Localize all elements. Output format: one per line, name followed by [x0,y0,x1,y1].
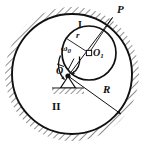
label-region-I: I [78,20,82,30]
label-center-O1-subscript: 1 [100,52,104,60]
center-marker-O1 [86,50,91,55]
label-point-P: P [117,4,124,15]
label-center-O1: O1 [93,48,104,58]
label-omega-symbol: ω [61,43,68,53]
diagram-canvas: P I r O1 ω0 O R II [0,0,143,143]
label-pivot-O: O [56,66,63,76]
label-region-II: II [52,101,61,112]
mechanics-figure [0,0,143,143]
label-omega-zero: ω0 [61,44,71,53]
label-radius-R: R [103,84,110,95]
label-radius-r: r [76,31,80,40]
label-omega-subscript: 0 [68,47,72,55]
ground-hatching [52,89,84,95]
